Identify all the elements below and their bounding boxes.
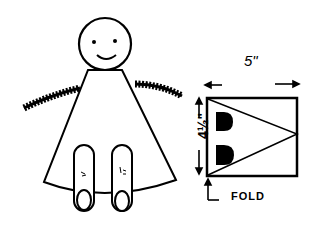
right-eye-icon [113,39,117,43]
fold-arrow-icon [205,179,219,200]
right-leg [112,145,132,211]
width-label: 5" [244,52,258,69]
left-leg [74,145,94,211]
right-arm-pipe-cleaner [135,84,182,96]
fold-label: FOLD [231,190,265,202]
craft-diagram [0,0,318,227]
head [79,18,131,70]
leg-cutout-bottom [216,145,234,165]
left-arm-pipe-cleaner [24,88,80,108]
left-eye-icon [92,40,96,44]
leg-cutout-top [216,112,233,131]
height-label: 4½" [195,113,211,139]
width-dimension-arrow [205,81,299,88]
